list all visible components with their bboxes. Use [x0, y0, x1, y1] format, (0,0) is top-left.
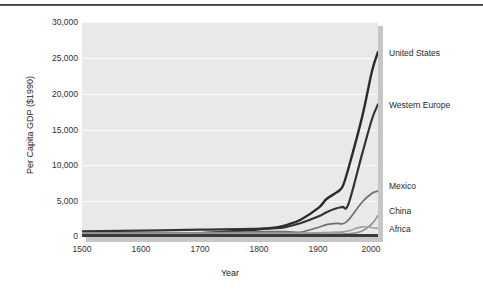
series-line-mexico: [82, 191, 378, 234]
x-tick-2000: 2000: [351, 244, 391, 254]
y-tick-5000: 5,000: [30, 197, 78, 206]
x-tick-1800: 1800: [239, 244, 279, 254]
x-tick-1500: 1500: [62, 244, 102, 254]
series-lines-group: [82, 22, 378, 238]
series-label-mexico: Mexico: [389, 181, 416, 191]
y-tick-30000: 30,000: [30, 18, 78, 27]
x-tick-1700: 1700: [180, 244, 220, 254]
series-line-united-states: [82, 52, 378, 234]
series-label-africa: Africa: [389, 224, 411, 234]
series-label-china: China: [389, 206, 411, 216]
y-tick-15000: 15,000: [30, 126, 78, 135]
x-tick-1900: 1900: [298, 244, 338, 254]
plot-right-shadow: [378, 26, 383, 241]
y-tick-10000: 10,000: [30, 161, 78, 170]
x-tick-1600: 1600: [121, 244, 161, 254]
chart-figure: 30,000 25,000 20,000 15,000 10,000 5,000…: [0, 0, 483, 291]
series-line-western-europe: [82, 104, 378, 231]
y-tick-25000: 25,000: [30, 54, 78, 63]
y-axis-title: Per Capita GDP ($1990): [25, 55, 35, 195]
y-tick-0: 0: [30, 232, 78, 241]
y-tick-20000: 20,000: [30, 90, 78, 99]
baseline-overlap-band: [82, 234, 378, 237]
series-label-united-states: United States: [389, 48, 440, 58]
series-label-western-europe: Western Europe: [389, 100, 450, 110]
x-axis-title: Year: [150, 268, 310, 278]
